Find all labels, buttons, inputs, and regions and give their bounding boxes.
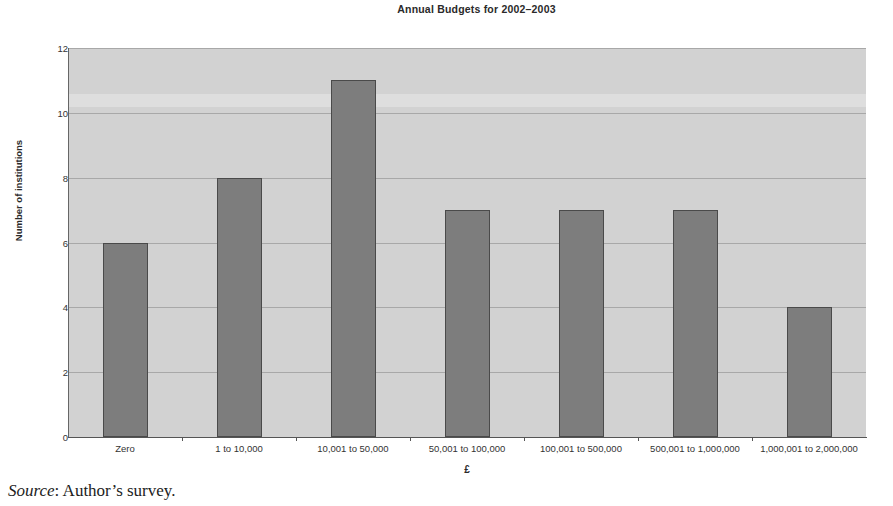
gridline	[68, 178, 866, 179]
x-axis-tick-label: Zero	[68, 443, 182, 454]
bar	[673, 210, 718, 437]
y-axis-tick-labels: 024681012	[30, 0, 68, 506]
x-axis-title: £	[68, 464, 866, 475]
gridline	[68, 113, 866, 114]
x-axis-tick-mark	[182, 437, 183, 441]
y-axis-line	[68, 48, 69, 438]
bar	[217, 178, 262, 437]
plot-area	[68, 48, 866, 437]
x-axis-tick-mark	[296, 437, 297, 441]
bar	[103, 243, 148, 438]
x-axis-tick-mark	[524, 437, 525, 441]
x-axis-tick-mark	[638, 437, 639, 441]
x-axis-tick-labels: Zero1 to 10,00010,001 to 50,00050,001 to…	[68, 443, 866, 461]
y-axis-tick-label: 12	[42, 43, 68, 54]
chart-title: Annual Budgets for 2002–2003	[0, 3, 893, 15]
x-axis-tick-label: 50,001 to 100,000	[410, 443, 524, 454]
scan-artifact-band	[68, 94, 866, 107]
y-axis-tick-label: 10	[42, 107, 68, 118]
x-axis-tick-mark	[752, 437, 753, 441]
y-axis-tick-label: 0	[42, 432, 68, 443]
source-label: Source	[8, 481, 55, 500]
bar	[445, 210, 490, 437]
bar	[787, 307, 832, 437]
x-axis-tick-label: 500,001 to 1,000,000	[638, 443, 752, 454]
x-axis-tick-label: 1,000,001 to 2,000,000	[752, 443, 866, 454]
y-axis-tick-label: 8	[42, 172, 68, 183]
y-axis-tick-label: 4	[42, 302, 68, 313]
gridline	[68, 48, 866, 49]
source-text: : Author’s survey.	[55, 481, 176, 500]
figure: Annual Budgets for 2002–2003 Number of i…	[0, 0, 893, 506]
source-caption: Source: Author’s survey.	[8, 481, 175, 501]
y-axis-tick-label: 6	[42, 237, 68, 248]
y-axis-title: Number of institutions	[13, 111, 24, 271]
x-axis-tick-label: 10,001 to 50,000	[296, 443, 410, 454]
x-axis-tick-mark	[410, 437, 411, 441]
x-axis-tick-label: 100,001 to 500,000	[524, 443, 638, 454]
bar	[559, 210, 604, 437]
y-axis-tick-label: 2	[42, 367, 68, 378]
x-axis-tick-label: 1 to 10,000	[182, 443, 296, 454]
bar	[331, 80, 376, 437]
x-axis-line	[68, 437, 867, 438]
